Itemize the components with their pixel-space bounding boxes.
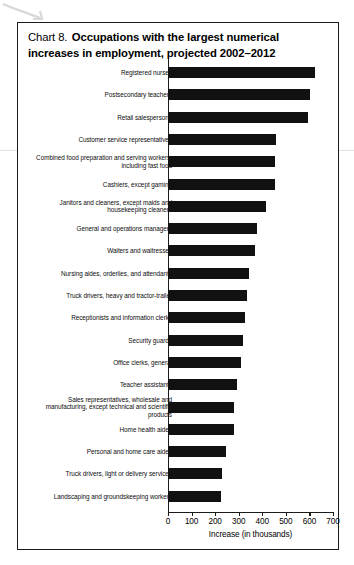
category-label: Registered nurses <box>30 69 172 76</box>
chart-row: Office clerks, general <box>18 352 340 374</box>
chart-row: Truck drivers, heavy and tractor-trailer <box>18 285 340 307</box>
bar <box>168 156 275 167</box>
category-label: Sales representatives, wholesale and man… <box>30 396 172 418</box>
chart-row: Truck drivers, light or delivery service… <box>18 463 340 485</box>
chart-row: Janitors and cleaners, except maids and … <box>18 196 340 218</box>
category-label: Postsecondary teachers <box>30 91 172 98</box>
category-label: Nursing aides, orderlies, and attendants <box>30 270 172 277</box>
x-axis-tick <box>309 512 310 516</box>
category-label: Cashiers, except gaming <box>30 181 172 188</box>
category-label: General and operations managers <box>30 225 172 232</box>
x-axis-tick-label: 700 <box>320 517 346 526</box>
chart-row: Personal and home care aides <box>18 441 340 463</box>
x-axis-tick <box>262 512 263 516</box>
bar <box>168 446 226 457</box>
x-axis-tick-label: 200 <box>202 517 228 526</box>
chart-row: Postsecondary teachers <box>18 84 340 106</box>
category-label: Home health aides <box>30 426 172 433</box>
bar <box>168 67 315 78</box>
x-axis-tick-label: 500 <box>273 517 299 526</box>
category-label: Security guards <box>30 337 172 344</box>
bar <box>168 379 237 390</box>
chart-row: General and operations managers <box>18 218 340 240</box>
x-axis-title: Increase (in thousands) <box>168 530 333 539</box>
x-axis-tick-label: 0 <box>155 517 181 526</box>
bar <box>168 245 255 256</box>
chart-row: Home health aides <box>18 419 340 441</box>
bar <box>168 312 245 323</box>
chart-row: Security guards <box>18 330 340 352</box>
bar <box>168 134 276 145</box>
chart-row: Teacher assistants <box>18 374 340 396</box>
bar <box>168 201 266 212</box>
category-label: Receptionists and information clerks <box>30 314 172 321</box>
category-label: Janitors and cleaners, except maids and … <box>30 199 172 214</box>
x-axis-tick <box>239 512 240 516</box>
bar <box>168 268 249 279</box>
x-axis-line <box>168 512 333 513</box>
chart-row: Retail salespersons <box>18 107 340 129</box>
chart-row: Cashiers, except gaming <box>18 174 340 196</box>
chart-row: Sales representatives, wholesale and man… <box>18 397 340 419</box>
category-label: Truck drivers, light or delivery service… <box>30 470 172 477</box>
chart-row: Landscaping and groundskeeping workers <box>18 486 340 508</box>
plot-area: Registered nursesPostsecondary teachersR… <box>18 23 340 551</box>
x-axis-tick <box>192 512 193 516</box>
chart-row: Customer service representatives <box>18 129 340 151</box>
chart-row: Combined food preparation and serving wo… <box>18 151 340 173</box>
category-label: Office clerks, general <box>30 359 172 366</box>
category-label: Customer service representatives <box>30 136 172 143</box>
bar <box>168 290 247 301</box>
bar <box>168 402 234 413</box>
chart-row: Waiters and waitresses <box>18 240 340 262</box>
bar <box>168 335 243 346</box>
bar <box>168 112 308 123</box>
chart-row: Registered nurses <box>18 62 340 84</box>
bar <box>168 491 221 502</box>
category-label: Waiters and waitresses <box>30 247 172 254</box>
category-label: Teacher assistants <box>30 381 172 388</box>
x-axis-tick <box>215 512 216 516</box>
category-label: Personal and home care aides <box>30 448 172 455</box>
x-axis-tick-label: 400 <box>249 517 275 526</box>
chart-frame: Chart 8. Occupations with the largest nu… <box>17 22 339 550</box>
category-label: Landscaping and groundskeeping workers <box>30 493 172 500</box>
x-axis-tick <box>168 512 169 516</box>
bar <box>168 223 257 234</box>
x-axis-tick <box>333 512 334 516</box>
bar <box>168 179 275 190</box>
bar <box>168 89 310 100</box>
category-label: Combined food preparation and serving wo… <box>30 154 172 169</box>
category-label: Retail salespersons <box>30 114 172 121</box>
chart-row: Receptionists and information clerks <box>18 307 340 329</box>
x-axis-tick-label: 600 <box>296 517 322 526</box>
x-axis-tick-label: 300 <box>226 517 252 526</box>
chart-row: Nursing aides, orderlies, and attendants <box>18 263 340 285</box>
bar <box>168 424 234 435</box>
x-axis-tick-label: 100 <box>179 517 205 526</box>
category-label: Truck drivers, heavy and tractor-trailer <box>30 292 172 299</box>
bar <box>168 357 241 368</box>
scan-artifact <box>2 2 48 24</box>
bar <box>168 468 222 479</box>
x-axis-tick <box>286 512 287 516</box>
